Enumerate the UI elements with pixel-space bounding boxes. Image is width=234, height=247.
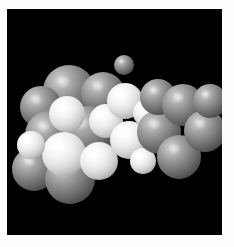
molecule-figure [0,0,234,247]
atom-c-22 [193,84,222,118]
atom-c-23 [114,55,134,75]
molecule-scene [7,9,222,235]
render-canvas [7,9,222,235]
atom-h-8 [49,96,85,132]
atom-h-9 [42,132,86,176]
atom-h-10 [17,131,45,159]
